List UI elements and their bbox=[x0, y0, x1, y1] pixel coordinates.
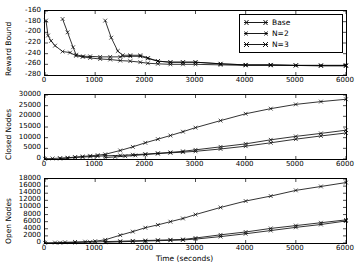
legend[interactable]: Base N=2 bbox=[239, 14, 343, 53]
x-tick-label: 0 bbox=[28, 76, 60, 84]
x-tick-label: 6000 bbox=[329, 160, 359, 168]
series-line-n3 bbox=[105, 133, 346, 158]
x-tick-label: 4000 bbox=[229, 244, 261, 252]
legend-label-n2: N=2 bbox=[272, 29, 289, 38]
x-tick-label: 2000 bbox=[128, 76, 160, 84]
y-tick-label: 30000 bbox=[0, 90, 41, 98]
legend-entry-base[interactable]: Base bbox=[243, 17, 339, 28]
x-tick-label: 4000 bbox=[229, 160, 261, 168]
legend-line-n2 bbox=[243, 29, 269, 38]
panel-open-nodes: Open Nodes 02000400060008000100001200014… bbox=[0, 174, 352, 267]
y-tick-label: 10000 bbox=[0, 202, 41, 210]
x-tick-label: 3000 bbox=[179, 76, 211, 84]
y-tick-label: 18000 bbox=[0, 174, 41, 182]
series-line-n2 bbox=[60, 220, 346, 243]
legend-line-base bbox=[243, 18, 269, 27]
y-tick-label: 5000 bbox=[0, 143, 41, 151]
x-tick-label: 6000 bbox=[329, 76, 359, 84]
series-markers-base bbox=[43, 181, 348, 245]
panel-closed-nodes: Closed Nodes 050001000015000200002500030… bbox=[0, 90, 352, 174]
x-axis-label: Time (seconds) bbox=[22, 254, 347, 263]
y-tick-label: 8000 bbox=[0, 210, 41, 218]
series-line-base bbox=[45, 183, 346, 243]
legend-entry-n2[interactable]: N=2 bbox=[243, 28, 339, 39]
legend-label-base: Base bbox=[272, 18, 290, 27]
panel3-plot-area bbox=[44, 178, 347, 244]
y-tick-label: 2000 bbox=[0, 231, 41, 239]
x-tick-label: 0 bbox=[28, 160, 60, 168]
x-tick-label: 2000 bbox=[128, 244, 160, 252]
y-tick-label: 10000 bbox=[0, 133, 41, 141]
x-tick-label: 5000 bbox=[279, 160, 311, 168]
x-tick-label: 5000 bbox=[279, 76, 311, 84]
panel2-plot-area bbox=[44, 94, 347, 160]
x-tick-label: 0 bbox=[28, 244, 60, 252]
x-tick-label: 1000 bbox=[78, 76, 110, 84]
y-tick-label: -160 bbox=[0, 6, 41, 14]
y-tick-label: -220 bbox=[0, 38, 41, 46]
legend-label-n3: N=3 bbox=[272, 40, 289, 49]
y-tick-label: -260 bbox=[0, 59, 41, 67]
legend-line-n3 bbox=[243, 40, 269, 49]
y-tick-label: 12000 bbox=[0, 195, 41, 203]
y-tick-label: -180 bbox=[0, 17, 41, 25]
y-tick-label: 25000 bbox=[0, 101, 41, 109]
panel3-series-layer bbox=[45, 179, 346, 243]
y-tick-label: 14000 bbox=[0, 188, 41, 196]
x-tick-label: 6000 bbox=[329, 244, 359, 252]
y-tick-label: 4000 bbox=[0, 224, 41, 232]
y-tick-label: -200 bbox=[0, 27, 41, 35]
y-tick-label: 15000 bbox=[0, 122, 41, 130]
x-tick-label: 1000 bbox=[78, 244, 110, 252]
x-tick-label: 5000 bbox=[279, 244, 311, 252]
panel2-series-layer bbox=[45, 95, 346, 159]
panel-reward-bound: Reward Bound -160-180-200-220-240-260-28… bbox=[0, 6, 352, 90]
x-tick-label: 3000 bbox=[179, 160, 211, 168]
x-tick-label: 1000 bbox=[78, 160, 110, 168]
y-tick-label: -240 bbox=[0, 49, 41, 57]
y-tick-label: 6000 bbox=[0, 217, 41, 225]
x-tick-label: 2000 bbox=[128, 160, 160, 168]
legend-entry-n3[interactable]: N=3 bbox=[243, 39, 339, 50]
y-tick-label: 20000 bbox=[0, 111, 41, 119]
y-tick-label: 16000 bbox=[0, 181, 41, 189]
x-tick-label: 4000 bbox=[229, 76, 261, 84]
x-tick-label: 3000 bbox=[179, 244, 211, 252]
